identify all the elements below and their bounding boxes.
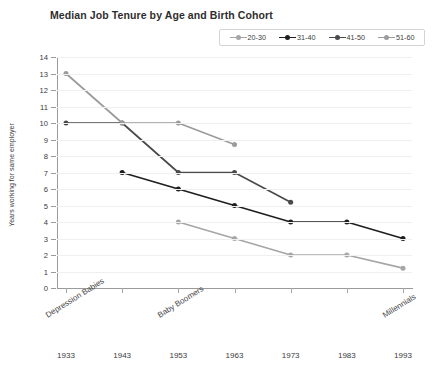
y-axis-title: Years working for same employer xyxy=(8,123,15,227)
y-axis-tick xyxy=(51,74,56,75)
gridline xyxy=(57,123,412,124)
y-axis-tick-label: 7 xyxy=(44,168,48,177)
gridline xyxy=(57,140,412,141)
y-axis-tick xyxy=(51,107,56,108)
cohort-annotation: Millennials xyxy=(381,292,417,319)
x-axis-tick xyxy=(66,288,67,293)
series-41-50 xyxy=(64,121,294,205)
series-20-30 xyxy=(176,220,406,271)
x-axis-tick-label: 1973 xyxy=(282,351,300,360)
y-axis-tick xyxy=(51,239,56,240)
legend-label: 20-30 xyxy=(248,33,266,42)
gridline xyxy=(57,173,412,174)
legend-item-20-30[interactable]: 20-30 xyxy=(230,33,266,42)
gridline xyxy=(57,272,412,273)
x-axis-tick xyxy=(122,288,123,293)
series-line xyxy=(66,74,235,145)
chart-title: Median Job Tenure by Age and Birth Cohor… xyxy=(50,9,273,21)
y-axis-tick-label: 6 xyxy=(44,185,48,194)
gridline xyxy=(57,239,412,240)
y-axis-tick xyxy=(51,189,56,190)
gridline xyxy=(57,222,412,223)
y-axis-tick xyxy=(51,173,56,174)
gridline xyxy=(57,206,412,207)
legend-marker-icon xyxy=(329,34,346,42)
y-axis-tick-label: 1 xyxy=(44,267,48,276)
gridline xyxy=(57,74,412,75)
legend-item-41-50[interactable]: 41-50 xyxy=(329,33,365,42)
y-axis-tick xyxy=(51,90,56,91)
gridline xyxy=(57,57,412,58)
y-axis-tick-label: 5 xyxy=(44,201,48,210)
y-axis-tick-label: 10 xyxy=(40,119,48,128)
legend-item-31-40[interactable]: 31-40 xyxy=(279,33,315,42)
y-axis-tick xyxy=(51,288,56,289)
plot-area: Birth year 01234567891011121314193319431… xyxy=(57,57,412,288)
legend-item-51-60[interactable]: 51-60 xyxy=(378,33,414,42)
y-axis-tick-label: 0 xyxy=(44,284,48,293)
y-axis-tick xyxy=(51,57,56,58)
y-axis-tick xyxy=(51,140,56,141)
legend-marker-icon xyxy=(279,34,296,42)
legend-label: 31-40 xyxy=(297,33,315,42)
data-point xyxy=(288,200,293,205)
y-axis-tick xyxy=(51,222,56,223)
x-axis-tick xyxy=(235,288,236,293)
legend-marker-icon xyxy=(378,34,395,42)
x-axis-tick-label: 1953 xyxy=(169,351,187,360)
x-axis-tick xyxy=(291,288,292,293)
y-axis-tick-label: 4 xyxy=(44,218,48,227)
legend-marker-icon xyxy=(230,34,247,42)
legend-label: 51-60 xyxy=(396,33,414,42)
x-axis-tick-label: 1933 xyxy=(57,351,75,360)
y-axis-tick xyxy=(51,206,56,207)
data-point xyxy=(232,142,237,147)
y-axis-tick-label: 11 xyxy=(40,102,48,111)
y-axis-tick-label: 8 xyxy=(44,152,48,161)
x-axis-tick xyxy=(403,288,404,293)
x-axis-tick xyxy=(178,288,179,293)
series-51-60 xyxy=(64,71,238,147)
chart-legend: 20-3031-4041-5051-60 xyxy=(219,29,425,46)
gridline xyxy=(57,255,412,256)
cohort-annotation: Baby Boomers xyxy=(156,284,205,319)
gridline xyxy=(57,90,412,91)
y-axis-tick xyxy=(51,272,56,273)
gridline xyxy=(57,189,412,190)
x-axis-tick-label: 1943 xyxy=(113,351,131,360)
gridline xyxy=(57,156,412,157)
x-axis-tick-label: 1993 xyxy=(394,351,412,360)
data-point xyxy=(401,266,406,271)
gridline xyxy=(57,107,412,108)
y-axis-tick-label: 2 xyxy=(44,251,48,260)
chart-canvas: Median Job Tenure by Age and Birth Cohor… xyxy=(0,0,432,372)
x-axis-tick-label: 1983 xyxy=(338,351,356,360)
y-axis-tick-label: 3 xyxy=(44,234,48,243)
y-axis-tick xyxy=(51,123,56,124)
y-axis-tick-label: 13 xyxy=(40,69,48,78)
y-axis-tick xyxy=(51,255,56,256)
x-axis-tick-label: 1963 xyxy=(226,351,244,360)
y-axis-tick xyxy=(51,156,56,157)
legend-label: 41-50 xyxy=(347,33,365,42)
y-axis-tick-label: 14 xyxy=(40,53,48,62)
x-axis-tick xyxy=(347,288,348,293)
y-axis-tick-label: 12 xyxy=(40,86,48,95)
y-axis-tick-label: 9 xyxy=(44,135,48,144)
